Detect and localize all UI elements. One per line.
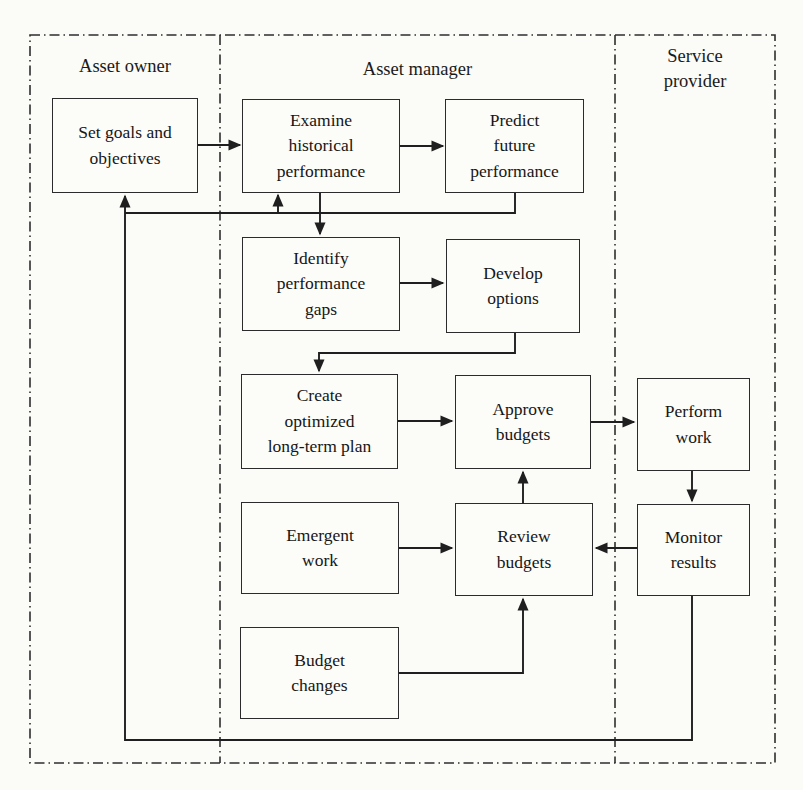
box-set-goals-and-objectives: Set goals and objectives bbox=[52, 98, 198, 193]
arrow-develop-to-create bbox=[319, 333, 515, 371]
box-examine-historical-performance: Examine historical performance bbox=[242, 99, 400, 193]
box-monitor-results: Monitor results bbox=[637, 504, 750, 596]
flow-arrows bbox=[125, 145, 692, 740]
box-perform-work: Perform work bbox=[637, 378, 750, 471]
box-identify-performance-gaps: Identify performance gaps bbox=[242, 237, 400, 331]
arrow-budgetchanges-to-review bbox=[399, 599, 523, 673]
box-emergent-work: Emergent work bbox=[241, 502, 399, 594]
asset-management-flowchart: Asset owner Asset manager Service provid… bbox=[0, 0, 803, 790]
box-review-budgets: Review budgets bbox=[455, 503, 593, 596]
box-create-optimized-long-term-plan: Create optimized long-term plan bbox=[241, 374, 398, 469]
box-budget-changes: Budget changes bbox=[240, 627, 399, 719]
lane-header-asset-manager: Asset manager bbox=[220, 57, 615, 82]
box-develop-options: Develop options bbox=[446, 239, 580, 333]
box-predict-future-performance: Predict future performance bbox=[445, 99, 584, 193]
arrow-monitor-feedback-to-setgoals bbox=[125, 196, 692, 740]
lane-header-service-provider: Service provider bbox=[615, 44, 775, 94]
lane-header-asset-owner: Asset owner bbox=[30, 54, 220, 79]
box-approve-budgets: Approve budgets bbox=[455, 375, 591, 469]
